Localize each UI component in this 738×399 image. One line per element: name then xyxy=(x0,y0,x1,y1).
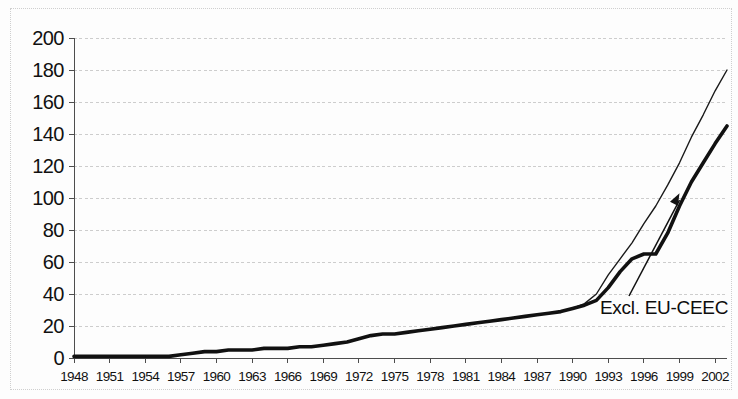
gridlines xyxy=(74,38,727,326)
x-axis-tick-label: 1954 xyxy=(127,370,163,384)
y-axis-tick-label: 60 xyxy=(12,252,64,272)
x-axis-tick-label: 1969 xyxy=(305,370,341,384)
y-axis-tick-label: 80 xyxy=(12,220,64,240)
x-axis-tick-label: 1990 xyxy=(555,370,591,384)
chart-container: 200180160140120100806040200 194819511954… xyxy=(0,0,738,399)
y-axis-tick-label: 20 xyxy=(12,316,64,336)
x-axis-tick-label: 1999 xyxy=(662,370,698,384)
x-axis-tick-label: 1966 xyxy=(270,370,306,384)
x-axis-tick-label: 1975 xyxy=(377,370,413,384)
x-axis-tick-label: 1987 xyxy=(519,370,555,384)
chart-plot-area xyxy=(0,0,738,399)
x-axis-tick-label: 1948 xyxy=(56,370,92,384)
y-axis-tick-label: 100 xyxy=(12,188,64,208)
x-axis-tick-label: 2002 xyxy=(697,370,733,384)
x-axis-tick-label: 1978 xyxy=(412,370,448,384)
x-axis-tick-label: 1957 xyxy=(163,370,199,384)
x-axis-tick-label: 1960 xyxy=(198,370,234,384)
y-axis-tick-label: 200 xyxy=(12,28,64,48)
x-axis-tick-label: 1951 xyxy=(92,370,128,384)
x-axis-tick-label: 1963 xyxy=(234,370,270,384)
y-axis-tick-label: 0 xyxy=(12,348,64,368)
x-axis-tick-label: 1984 xyxy=(483,370,519,384)
x-axis-tick-label: 1993 xyxy=(590,370,626,384)
y-axis-tick-label: 180 xyxy=(12,60,64,80)
y-axis-tick-label: 40 xyxy=(12,284,64,304)
x-axis-tick-label: 1996 xyxy=(626,370,662,384)
x-axis-tick-label: 1972 xyxy=(341,370,377,384)
x-axis-tick-label: 1981 xyxy=(448,370,484,384)
y-axis-tick-label: 120 xyxy=(12,156,64,176)
y-axis-tick-label: 140 xyxy=(12,124,64,144)
y-axis-ticks xyxy=(69,38,74,358)
x-axis-ticks xyxy=(74,358,715,363)
y-axis-tick-label: 160 xyxy=(12,92,64,112)
annotation-excl-eu-ceec-label: Excl. EU-CEEC xyxy=(600,298,728,317)
